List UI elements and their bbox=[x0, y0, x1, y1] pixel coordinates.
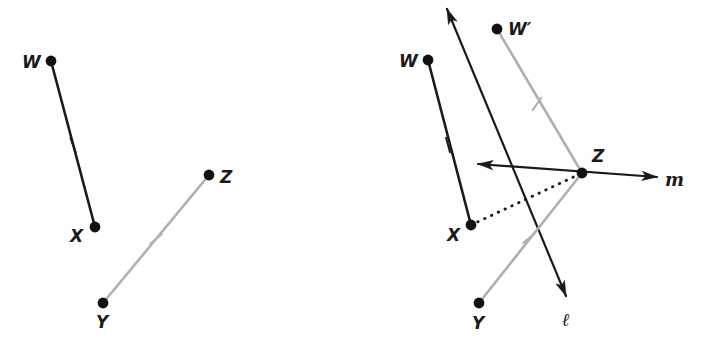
point-label-Y: Y bbox=[96, 312, 110, 332]
point-Z bbox=[204, 170, 215, 181]
point-W2 bbox=[423, 55, 434, 66]
congruence-tick-mark bbox=[150, 234, 161, 244]
line-l bbox=[447, 9, 566, 296]
point-label-W: W bbox=[22, 52, 42, 72]
line-label-m: m bbox=[665, 169, 684, 190]
segment-wx-copy bbox=[428, 60, 471, 225]
figure-canvas: WXYZℓmWW′XYZ bbox=[0, 0, 714, 354]
point-label-Z2: Z bbox=[591, 146, 605, 166]
point-label-Y2: Y bbox=[472, 313, 486, 333]
point-X bbox=[90, 222, 101, 233]
point-Wprime bbox=[492, 24, 503, 35]
point-label-Wprime: W′ bbox=[508, 19, 532, 39]
line-m bbox=[478, 164, 657, 177]
point-label-X: X bbox=[69, 226, 84, 246]
point-Y2 bbox=[474, 298, 485, 309]
point-W bbox=[46, 56, 57, 67]
geometry-figure: WXYZℓmWW′XYZ bbox=[0, 0, 714, 354]
dotted-segment-xz bbox=[471, 173, 582, 225]
point-label-W2: W bbox=[399, 51, 419, 71]
point-Z2 bbox=[577, 168, 588, 179]
generated-geometry-layer bbox=[46, 9, 657, 308]
line-label-l: ℓ bbox=[562, 309, 570, 330]
point-X2 bbox=[466, 220, 477, 231]
point-label-Z: Z bbox=[219, 167, 233, 187]
point-label-X2: X bbox=[446, 225, 461, 245]
point-Y bbox=[98, 298, 109, 309]
segment-yz-copy bbox=[479, 173, 582, 303]
